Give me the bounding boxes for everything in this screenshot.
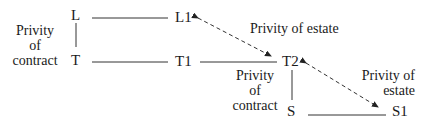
node-T1: T1 — [175, 54, 192, 69]
label-privity-of-estate-top: Privity of estate — [250, 21, 339, 36]
label-line: contract — [10, 53, 60, 68]
node-L1: L1 — [175, 10, 192, 25]
label-line: of — [10, 38, 60, 53]
label-line: of — [230, 83, 280, 98]
privity-diagram: L L1 T T1 T2 S S1 Privity of contract Pr… — [0, 0, 433, 123]
label-line: Privity — [10, 23, 60, 38]
node-T: T — [71, 53, 80, 68]
label-line: estate — [360, 83, 415, 98]
label-line: Privity of — [360, 68, 415, 83]
label-privity-of-estate-right: Privity of estate — [360, 68, 415, 98]
label-line: contract — [230, 98, 280, 113]
node-S: S — [287, 104, 295, 119]
node-T2: T2 — [282, 54, 299, 69]
label-privity-of-contract-middle: Privity of contract — [230, 68, 280, 113]
diagram-lines — [0, 0, 433, 123]
node-L: L — [71, 8, 80, 23]
node-S1: S1 — [392, 104, 408, 119]
label-privity-of-contract-left: Privity of contract — [10, 23, 60, 68]
label-line: Privity — [230, 68, 280, 83]
